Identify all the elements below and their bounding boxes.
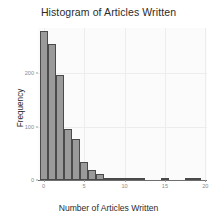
histogram-bar [40, 31, 48, 180]
page-title: Histogram of Articles Written [0, 6, 217, 18]
x-axis-title: Number of Articles Written [0, 203, 217, 213]
y-axis-title: Frequency [16, 68, 25, 148]
x-tick-mark [125, 180, 126, 182]
x-tick-mark [165, 180, 166, 182]
histogram-bar [80, 162, 88, 180]
plot-panel [38, 28, 207, 180]
histogram-bar [88, 170, 96, 180]
x-tick-label: 5 [77, 183, 91, 189]
y-tick-label: 100 [18, 124, 34, 130]
x-tick-label: 20 [198, 183, 212, 189]
histogram-bar [64, 129, 72, 180]
y-tick-mark [36, 126, 38, 127]
x-tick-label: 0 [37, 183, 51, 189]
y-tick-label: 200 [18, 70, 34, 76]
histogram-figure: Histogram of Articles Written Frequency … [0, 0, 217, 216]
y-tick-label: 0 [18, 177, 34, 183]
x-tick-label: 10 [118, 183, 132, 189]
x-axis-line [38, 180, 207, 181]
bar-series [38, 28, 207, 180]
y-tick-mark [36, 180, 38, 181]
x-tick-mark [84, 180, 85, 182]
y-tick-mark [36, 73, 38, 74]
histogram-bar [72, 139, 80, 180]
x-tick-mark [205, 180, 206, 182]
x-tick-mark [44, 180, 45, 182]
x-tick-label: 15 [158, 183, 172, 189]
histogram-bar [56, 75, 64, 180]
histogram-bar [48, 44, 56, 180]
